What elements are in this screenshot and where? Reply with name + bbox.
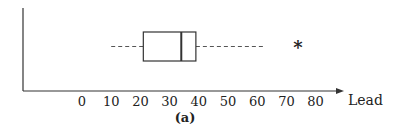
x-tick-label: 40	[191, 94, 208, 109]
x-tick-label: 0	[78, 94, 86, 109]
x-tick-label: 20	[132, 94, 149, 109]
figure-caption: (a)	[175, 110, 196, 125]
x-tick-labels: 01020304050607080	[78, 94, 324, 109]
x-tick-label: 70	[278, 94, 295, 109]
box-plot-chart: 01020304050607080 Lead * (a)	[0, 0, 398, 135]
interquartile-box	[143, 32, 196, 61]
x-tick-label: 80	[307, 94, 324, 109]
x-axis	[23, 88, 344, 94]
outlier-asterisk-icon: *	[293, 37, 303, 58]
x-tick-label: 30	[161, 94, 178, 109]
x-tick-label: 60	[249, 94, 266, 109]
x-axis-arrow-icon	[336, 88, 344, 94]
box-plot: *	[111, 32, 303, 61]
x-tick-label: 50	[220, 94, 237, 109]
x-axis-title: Lead	[348, 92, 383, 108]
x-tick-label: 10	[103, 94, 120, 109]
